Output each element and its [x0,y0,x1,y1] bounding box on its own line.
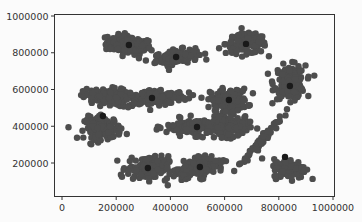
data-point [155,124,161,130]
data-point [102,34,108,40]
data-point [235,38,241,44]
data-point [265,128,271,134]
data-point [253,147,259,153]
x-tick-label: 800000 [261,202,297,213]
data-point [130,176,136,182]
data-point [139,90,145,96]
data-point [305,93,311,99]
data-point [277,113,283,119]
data-point [165,153,171,159]
data-point [223,50,229,56]
data-point [245,103,251,109]
data-point [107,123,113,129]
data-point [215,124,221,130]
data-point [286,77,292,83]
data-point [265,71,271,77]
data-point [124,131,130,137]
y-tick-label: 400000 [12,121,48,132]
data-point [228,88,234,94]
y-tick-label: 1000000 [6,11,48,22]
data-point [191,160,197,166]
data-point [96,93,102,99]
x-tick-label: 1000000 [312,202,354,213]
data-point [203,166,209,172]
y-tick-label: 800000 [12,47,48,58]
data-point [176,89,182,95]
data-point [282,112,288,118]
data-point [186,89,192,95]
data-point [143,57,149,63]
data-point [95,125,101,131]
x-tick-label: 0 [59,202,65,213]
data-point [153,58,159,64]
data-point [198,95,204,101]
data-point [275,119,281,125]
data-point [227,115,233,121]
data-point [288,163,294,169]
data-point [154,52,160,58]
data-point [133,157,139,163]
plot-points [65,25,317,189]
data-point [266,53,272,59]
data-point [219,135,225,141]
data-point [211,134,217,140]
data-point [90,90,96,96]
data-point [292,76,298,82]
data-point [305,75,311,81]
data-point [127,158,133,164]
data-point [291,59,297,65]
data-point [239,53,245,59]
y-tick-label: 200000 [12,158,48,169]
data-point [258,48,264,54]
data-point [144,156,150,162]
data-point [223,109,229,115]
data-point [282,159,288,165]
data-point [219,87,225,93]
y-tick-label: 600000 [12,84,48,95]
data-point [226,125,232,131]
data-point [159,94,165,100]
data-point [127,90,133,96]
data-point [233,48,239,54]
centroid-point [287,83,293,89]
data-point [96,131,102,137]
data-point [80,134,86,140]
x-axis: 02000004000006000008000001000000 [59,197,354,213]
centroid-point [226,97,232,103]
data-point [231,168,237,174]
data-point [166,67,172,73]
y-axis: 2000004000006000008000001000000 [6,11,54,169]
data-point [238,25,244,31]
data-point [221,41,227,47]
data-point [146,45,152,51]
data-point [212,158,218,164]
data-point [225,131,231,137]
data-point [215,97,221,103]
data-point [279,168,285,174]
data-point [198,176,204,182]
x-tick-label: 600000 [206,202,242,213]
data-point [311,72,317,78]
data-point [114,157,120,163]
data-point [131,100,137,106]
data-point [205,128,211,134]
centroid-point [197,164,203,170]
data-point [113,95,119,101]
data-point [216,45,222,51]
centroid-point [243,41,249,47]
data-point [115,31,121,37]
data-point [165,182,171,188]
data-point [259,155,265,161]
data-point [235,132,241,138]
data-point [182,51,188,57]
data-point [216,114,222,120]
data-point [280,60,286,66]
data-point [250,90,256,96]
data-point [230,109,236,115]
data-point [200,134,206,140]
data-point [260,133,266,139]
data-point [279,71,285,77]
data-point [291,97,297,103]
data-point [164,164,170,170]
data-point [136,55,142,61]
